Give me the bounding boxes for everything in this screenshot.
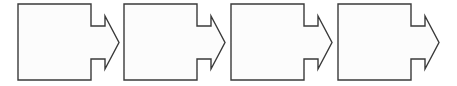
flow-step-3[interactable] <box>231 4 332 80</box>
shape-layer <box>18 4 439 80</box>
flow-step-1[interactable] <box>18 4 119 80</box>
flow-step-2[interactable] <box>124 4 225 80</box>
diagram-canvas <box>0 0 457 86</box>
flow-step-4[interactable] <box>338 4 439 80</box>
process-flow-diagram <box>0 0 457 86</box>
